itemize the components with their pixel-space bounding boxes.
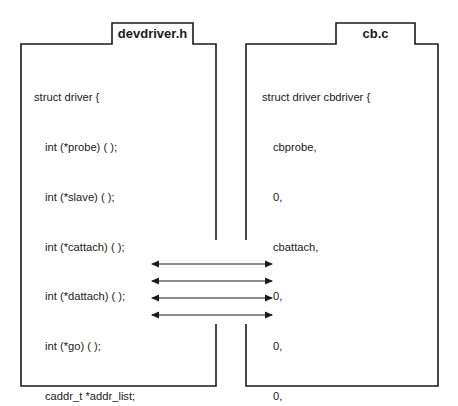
left-file-title: devdriver.h [112, 26, 193, 41]
member: int (*slave) ( ); [34, 189, 171, 206]
initializer: 0, [262, 189, 370, 206]
struct-open: struct driver cbdriver { [262, 89, 370, 106]
member: int (*go) ( ); [34, 338, 171, 355]
initializer: 0, [262, 338, 370, 355]
member: int (*dattach) ( ); [34, 288, 171, 305]
member: caddr_t *addr_list; [34, 388, 171, 405]
struct-open: struct driver { [34, 89, 171, 106]
member: int (*cattach) ( ); [34, 239, 171, 256]
right-code-block: struct driver cbdriver { cbprobe, 0, cba… [262, 56, 370, 406]
initializer: 0, [262, 288, 370, 305]
member: int (*probe) ( ); [34, 139, 171, 156]
initializer: cbattach, [262, 239, 370, 256]
initializer: cbprobe, [262, 139, 370, 156]
left-code-block: struct driver { int (*probe) ( ); int (*… [34, 56, 171, 406]
right-file-title: cb.c [336, 26, 415, 41]
initializer: 0, [262, 388, 370, 405]
